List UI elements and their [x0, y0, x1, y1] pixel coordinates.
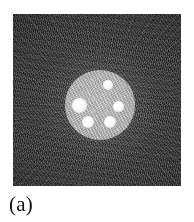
figure-caption: (a)	[9, 190, 33, 218]
image-vignette	[13, 14, 181, 186]
reconstructed-image	[13, 14, 181, 186]
figure-panel: (a)	[0, 0, 194, 222]
